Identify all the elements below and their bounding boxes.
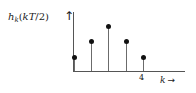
stem-marker	[89, 39, 94, 44]
y-axis-label-paren-close: )	[45, 11, 49, 22]
stem-marker	[106, 24, 111, 29]
x-axis-name-text: k	[160, 75, 165, 85]
x-axis-tick-label-4: 4	[139, 74, 144, 82]
y-axis-label-argument: kT	[23, 11, 36, 22]
x-axis-arrow-icon: →	[167, 75, 175, 85]
stem-line	[108, 27, 109, 71]
stem-plot-figure: hk(kT/2) ↑ 4 k→	[0, 0, 196, 93]
stem-marker	[141, 55, 146, 60]
stem-line	[126, 41, 127, 71]
y-axis-label: hk(kT/2)	[8, 12, 49, 24]
stem-marker	[124, 39, 129, 44]
stem-line	[91, 41, 92, 71]
x-axis-name: k→	[160, 76, 175, 85]
stem-marker	[72, 55, 77, 60]
x-axis-line	[73, 71, 185, 72]
